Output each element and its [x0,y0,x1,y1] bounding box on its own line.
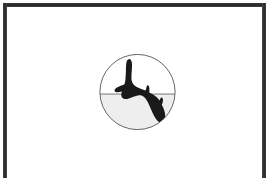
emblem-graphic [99,51,176,133]
page-canvas: Circular emblem: black bird of prey in f… [0,0,269,178]
circular-bird-emblem: Circular emblem: black bird of prey in f… [99,51,176,133]
